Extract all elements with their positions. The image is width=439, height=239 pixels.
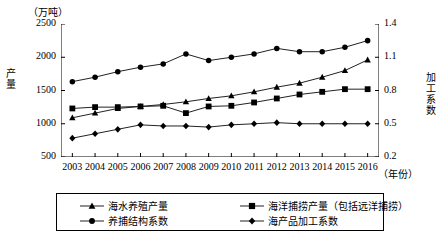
legend-label: 海水养殖产量	[108, 198, 168, 213]
legend-label: 养捕结构系数	[108, 213, 168, 228]
y-left-tick: 1500	[22, 84, 56, 95]
y-axis-right-title: 加工系数	[422, 72, 437, 116]
y-left-tick: 1000	[22, 117, 56, 128]
legend-item: 养捕结构系数	[79, 213, 168, 228]
chart-figure: （万吨） 产量 加工系数 5001000150020002500 0.20.50…	[0, 0, 439, 239]
legend-label: 海洋捕捞产量（包括远洋捕捞）	[268, 198, 408, 213]
y-right-tick: 0.2	[384, 150, 412, 161]
y-left-tick: 2000	[22, 50, 56, 61]
legend-item: 海水养殖产量	[79, 198, 168, 213]
y-right-tick: 1.4	[384, 17, 412, 28]
y-right-tick: 0.8	[384, 84, 412, 95]
series-0	[69, 57, 371, 121]
chart-legend: 海水养殖产量海洋捕捞产量（包括远洋捕捞）养捕结构系数海产品加工系数	[56, 193, 384, 231]
series-3	[69, 119, 370, 141]
legend-label: 海产品加工系数	[268, 213, 338, 228]
y-axis-left-title: 产量	[2, 68, 17, 90]
y-left-tick: 500	[22, 150, 56, 161]
diamond-marker-icon	[239, 215, 265, 227]
circle-marker-icon	[79, 215, 105, 227]
series-2	[70, 38, 371, 85]
y-right-tick: 1.1	[384, 50, 412, 61]
square-marker-icon	[239, 200, 265, 212]
series-1	[69, 86, 370, 116]
x-axis-unit-label: （年份）	[378, 166, 418, 181]
legend-item: 海洋捕捞产量（包括远洋捕捞）	[239, 198, 408, 213]
plot-area	[61, 24, 379, 157]
triangle-marker-icon	[79, 200, 105, 212]
y-left-tick: 2500	[22, 17, 56, 28]
legend-item: 海产品加工系数	[239, 213, 338, 228]
y-right-tick: 0.5	[384, 117, 412, 128]
